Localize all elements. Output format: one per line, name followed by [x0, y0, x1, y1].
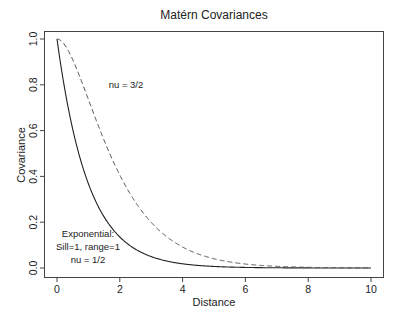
x-axis: 0246810	[54, 278, 377, 296]
x-tick-label: 0	[54, 283, 60, 295]
y-tick-label: 1.0	[27, 32, 39, 47]
annotation-nu-3-2: nu = 3/2	[109, 79, 144, 90]
y-axis: 0.00.20.40.60.81.0	[27, 32, 45, 276]
annotation-exponential-line2: Sill=1, range=1	[56, 241, 120, 252]
y-axis-label: Covariance	[15, 127, 27, 183]
y-tick-label: 0.2	[27, 215, 39, 230]
x-axis-label: Distance	[193, 296, 236, 308]
x-tick-label: 2	[117, 283, 123, 295]
x-tick-label: 4	[180, 283, 186, 295]
chart: Matérn Covariances 0246810 0.00.20.40.60…	[0, 0, 404, 317]
chart-title: Matérn Covariances	[160, 8, 267, 22]
annotation-exponential-line1: Exponential:	[62, 228, 114, 239]
y-tick-label: 0.0	[27, 261, 39, 276]
y-tick-label: 0.4	[27, 169, 39, 184]
y-tick-label: 0.6	[27, 123, 39, 138]
x-tick-label: 6	[242, 283, 248, 295]
y-tick-label: 0.8	[27, 77, 39, 92]
x-tick-label: 8	[305, 283, 311, 295]
annotation-exponential-line3: nu = 1/2	[71, 254, 106, 265]
x-tick-label: 10	[365, 283, 377, 295]
